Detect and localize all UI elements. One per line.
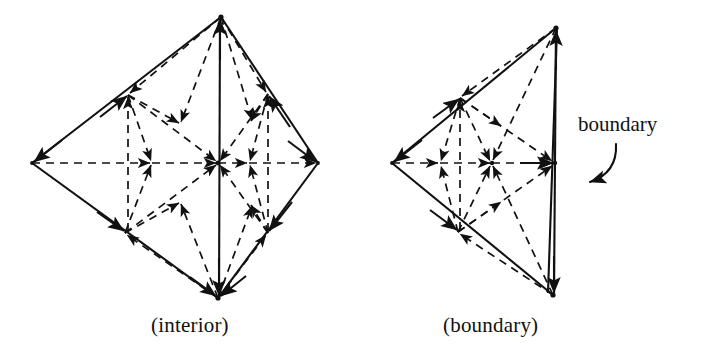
boundary-solid-arrowheads: [394, 30, 556, 293]
vertex-bottom: [215, 295, 220, 300]
vertex-rightmid-r: [553, 161, 557, 165]
vertex-center: [216, 161, 221, 166]
caption-interior: (interior): [151, 313, 229, 338]
panel-interior: [30, 14, 320, 300]
boundary-annotation-arrow: [590, 144, 616, 182]
interior-solid-edges: [32, 17, 318, 298]
vertex-left-r: [390, 161, 394, 165]
solid-arrow-to-midupperright: [269, 96, 290, 127]
vertex-top-r: [553, 25, 558, 30]
vertex-top: [218, 14, 223, 19]
dashed-edge-midupperright-to-center: [220, 94, 268, 161]
dashed-edge-midlowerleft-to-barylower: [125, 203, 179, 233]
caption-boundary: (boundary): [443, 313, 538, 338]
interior-vertices: [30, 14, 320, 300]
boundary-vertices: [390, 25, 559, 297]
dashed-edge-midupperleft-to-center: [128, 95, 216, 161]
dashed-edge-top-to-center-r: [493, 28, 556, 160]
dashed-edge-midupperleft-to-baryupper: [128, 95, 179, 123]
dashed-edge-top-to-midupperleft-r: [462, 28, 556, 96]
solid-arrow-to-left-vertex-r: [394, 140, 422, 162]
annotation-label-boundary: boundary: [578, 112, 657, 137]
solid-edge-left-to-top-r: [392, 28, 556, 163]
curved-arrow-path: [590, 144, 616, 182]
solid-arrow-to-right-vertex: [288, 141, 316, 162]
solid-edge-top-to-right: [221, 17, 318, 163]
vertex-bottom-r: [550, 292, 555, 297]
boundary-solid-edges: [392, 28, 557, 295]
dashed-edge-midupperleft-to-baryleft-r: [441, 98, 460, 161]
solid-arrow-to-left-vertex: [34, 140, 62, 162]
solid-arrow-to-midlowerleft: [97, 212, 124, 231]
interior-solid-arrowheads: [34, 19, 316, 296]
panel-boundary: [390, 25, 616, 297]
solid-arrow-to-midlowerright: [269, 202, 292, 231]
dashed-edge-midlowerright-to-baryright: [250, 165, 268, 233]
boundary-dashed-edges: [392, 28, 556, 295]
simplicial-complex-figure: [0, 0, 702, 358]
interior-dashed-edges: [32, 17, 316, 298]
dashed-edge-midupperright-to-baryright: [250, 94, 268, 161]
solid-arrow-to-bottom-left-side: [190, 277, 216, 296]
dashed-edge-top-to-baryupper-right: [221, 17, 252, 120]
vertex-right: [316, 161, 320, 165]
dashed-edge-midupperright-to-baryupperright: [251, 94, 268, 121]
dashed-edge-midlowerleft-to-center: [125, 165, 216, 233]
vertex-left: [30, 161, 34, 165]
dashed-edge-midlowerright-to-center: [220, 165, 268, 233]
dashed-edge-midlowerright-to-barylowerright: [251, 205, 268, 233]
figure-page: (interior) (boundary) boundary: [0, 0, 702, 358]
vertex-center-r: [490, 161, 494, 165]
dashed-edge-midlowerleft-to-baryleft-r: [441, 166, 458, 232]
